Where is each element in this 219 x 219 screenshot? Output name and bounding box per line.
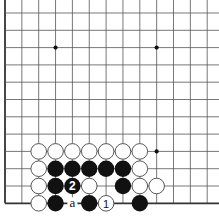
white-stone-disc [65, 144, 81, 160]
white-stone-disc [31, 161, 47, 177]
black-stone [115, 178, 131, 194]
black-stone-disc [47, 178, 63, 194]
white-stone-disc [132, 161, 148, 177]
black-stone [115, 161, 131, 177]
white-stone [98, 144, 114, 160]
white-stone: 1 [98, 196, 114, 212]
white-stone [115, 144, 131, 160]
white-stone [132, 144, 148, 160]
white-stone [149, 178, 165, 194]
move-number-label: 1 [103, 198, 109, 210]
black-stone [132, 195, 148, 211]
point-labels: a [67, 195, 77, 210]
black-stone: 2 [64, 178, 80, 194]
white-stone [48, 144, 64, 160]
white-stone-disc [115, 144, 131, 160]
star-point [53, 46, 57, 50]
white-stone [31, 178, 47, 194]
black-stone [47, 161, 63, 177]
white-stone [81, 144, 97, 160]
point-letter-label: a [70, 195, 76, 210]
white-stone-disc [132, 178, 148, 194]
white-stone-disc [81, 178, 97, 194]
black-stone-disc [132, 195, 148, 211]
black-stone [47, 178, 63, 194]
white-stone [65, 144, 81, 160]
black-stone [98, 161, 114, 177]
go-board: 21 a [0, 0, 219, 219]
black-stone [81, 195, 97, 211]
white-stone-disc [149, 178, 165, 194]
star-point [155, 46, 159, 50]
black-stone-disc [47, 161, 63, 177]
white-stone [31, 144, 47, 160]
white-stone [132, 161, 148, 177]
white-stone [81, 178, 97, 194]
white-stone-disc [31, 196, 47, 212]
white-stone-disc [98, 144, 114, 160]
black-stone [47, 195, 63, 211]
black-stone-disc [98, 161, 114, 177]
black-stone-disc [81, 195, 97, 211]
move-number-label: 2 [69, 179, 76, 193]
star-point [155, 149, 159, 153]
black-stone [64, 161, 80, 177]
white-stone [132, 178, 148, 194]
white-stone [31, 161, 47, 177]
white-stone [31, 196, 47, 212]
white-stone-disc [81, 144, 97, 160]
white-stone-disc [48, 144, 64, 160]
black-stone [81, 161, 97, 177]
white-stone-disc [31, 144, 47, 160]
white-stone-disc [31, 178, 47, 194]
stones-layer: 21 [31, 144, 165, 212]
black-stone-disc [115, 161, 131, 177]
black-stone-disc [64, 161, 80, 177]
black-stone-disc [115, 178, 131, 194]
black-stone-disc [81, 161, 97, 177]
white-stone-disc [132, 144, 148, 160]
black-stone-disc [47, 195, 63, 211]
